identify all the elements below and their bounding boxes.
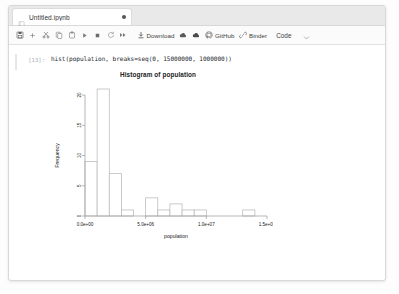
y-axis-label: Frequency bbox=[54, 142, 60, 167]
stop-button[interactable] bbox=[91, 28, 104, 43]
tab-untitled-ipynb[interactable]: Untitled.ipynb bbox=[12, 8, 132, 25]
histogram-plot: Histogram of population 051015200.0e+005… bbox=[43, 71, 273, 256]
github-label: GitHub bbox=[215, 32, 235, 39]
cell-source[interactable]: hist(population, breaks=seq(0, 15000000,… bbox=[51, 54, 385, 63]
code-cell[interactable]: [13]: hist(population, breaks=seq(0, 150… bbox=[9, 54, 385, 65]
cloud-upload-icon bbox=[179, 31, 188, 39]
cloud-upload-button[interactable] bbox=[177, 28, 190, 43]
screenshot-root: Untitled.ipynb bbox=[0, 0, 399, 294]
y-tick-label: 15 bbox=[77, 122, 82, 128]
unsaved-changes-indicator bbox=[122, 15, 126, 19]
github-button[interactable]: GitHub bbox=[203, 28, 237, 43]
restart-run-all-button[interactable] bbox=[117, 28, 130, 43]
y-tick-label: 10 bbox=[77, 152, 82, 158]
chart-canvas: 051015200.0e+005.0e+061.0e+071.5e+07popu… bbox=[43, 71, 273, 256]
histogram-bar bbox=[121, 209, 133, 215]
histogram-bar bbox=[146, 197, 158, 215]
cell-active-bar bbox=[15, 54, 17, 70]
y-tick-label: 5 bbox=[77, 184, 82, 187]
binder-button[interactable]: Binder bbox=[237, 28, 270, 43]
x-tick-label: 1.5e+07 bbox=[259, 222, 273, 227]
binder-label: Binder bbox=[249, 32, 267, 39]
histogram-bar bbox=[182, 209, 194, 215]
cell-output: Histogram of population 051015200.0e+005… bbox=[9, 71, 385, 256]
cell-type-dropdown[interactable]: Code bbox=[276, 28, 310, 43]
copy-button[interactable] bbox=[52, 28, 65, 43]
cloud-download-button[interactable] bbox=[190, 28, 203, 43]
paste-button[interactable] bbox=[65, 28, 78, 43]
cloud-download-icon bbox=[192, 31, 201, 39]
y-tick-label: 0 bbox=[77, 214, 82, 217]
save-button[interactable] bbox=[13, 28, 26, 43]
run-button[interactable] bbox=[78, 28, 91, 43]
tab-title: Untitled.ipynb bbox=[29, 14, 118, 21]
y-tick-label: 20 bbox=[77, 92, 82, 98]
download-label: Download bbox=[147, 32, 175, 39]
download-icon bbox=[137, 31, 145, 39]
notebook-body: [13]: hist(population, breaks=seq(0, 150… bbox=[9, 45, 385, 279]
github-icon bbox=[205, 31, 213, 39]
cell-type-value: Code bbox=[276, 32, 291, 39]
histogram-bar bbox=[85, 161, 97, 215]
histogram-bar bbox=[97, 89, 109, 216]
link-icon bbox=[239, 31, 247, 39]
x-tick-label: 0.0e+00 bbox=[77, 222, 94, 227]
histogram-bar bbox=[109, 173, 121, 215]
cut-button[interactable] bbox=[39, 28, 52, 43]
histogram-bar bbox=[158, 209, 170, 215]
chevron-down-icon bbox=[303, 26, 310, 44]
notebook-toolbar: Download GitHub bbox=[9, 26, 385, 45]
notebook-window: Untitled.ipynb bbox=[8, 5, 386, 281]
download-button[interactable]: Download bbox=[135, 28, 177, 43]
tab-strip: Untitled.ipynb bbox=[9, 6, 385, 26]
histogram-bar bbox=[243, 209, 255, 215]
x-tick-label: 1.0e+07 bbox=[198, 222, 215, 227]
restart-kernel-button[interactable] bbox=[104, 28, 117, 43]
histogram-bar bbox=[194, 209, 206, 215]
notebook-icon bbox=[18, 14, 25, 21]
histogram-bar bbox=[170, 203, 182, 215]
x-axis-label: population bbox=[164, 233, 188, 239]
x-tick-label: 5.0e+06 bbox=[137, 222, 154, 227]
add-cell-button[interactable] bbox=[26, 28, 39, 43]
